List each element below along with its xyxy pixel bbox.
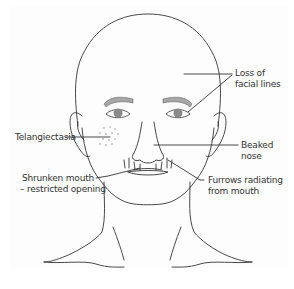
- nose-right: [154, 122, 162, 153]
- shoulder-left: [44, 262, 124, 267]
- label-line: from mouth: [208, 186, 283, 197]
- label-loss-of-facial-lines: Loss of facial lines: [235, 68, 281, 90]
- label-line: Telangiectasia: [15, 132, 76, 143]
- diagram-canvas: Loss of facial lines Telangiectasia Beak…: [0, 0, 294, 289]
- label-line: Beaked: [241, 140, 273, 151]
- nose-left: [134, 122, 142, 153]
- shoulder-right: [172, 262, 252, 267]
- nose-tip: [132, 153, 163, 163]
- label-line: – restricted opening: [20, 184, 94, 195]
- label-line: Shrunken mouth: [20, 173, 94, 184]
- leader-loss-2: [188, 75, 232, 112]
- label-shrunken-mouth: Shrunken mouth – restricted opening: [20, 173, 94, 195]
- telangiectasia-spots: [99, 126, 119, 146]
- leader-shrunken-mouth: [96, 168, 140, 178]
- right-eyebrow: [163, 97, 192, 107]
- label-furrows-radiating: Furrows radiating from mouth: [208, 175, 283, 197]
- mouth: [128, 171, 168, 176]
- label-telangiectasia: Telangiectasia: [15, 132, 76, 143]
- label-line: facial lines: [235, 79, 281, 90]
- label-beaked-nose: Beaked nose: [241, 140, 273, 162]
- label-line: Loss of: [235, 68, 281, 79]
- label-line: Furrows radiating: [208, 175, 283, 186]
- head-outline: [76, 14, 221, 126]
- label-line: nose: [241, 151, 273, 162]
- left-eyebrow: [104, 97, 133, 107]
